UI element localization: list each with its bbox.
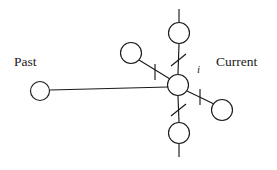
diagram-canvas: Past Current i — [0, 0, 277, 170]
past-node[interactable] — [31, 82, 50, 101]
edge-past-to-center — [50, 87, 168, 90]
center-node[interactable] — [168, 75, 189, 96]
diagram-svg — [0, 0, 277, 170]
top-node[interactable] — [169, 23, 190, 44]
node-layer — [31, 23, 233, 144]
center-node-label: i — [197, 64, 200, 75]
bottom-node[interactable] — [169, 123, 190, 144]
current-label: Current — [216, 55, 257, 69]
past-label: Past — [14, 55, 37, 69]
lower-right-node[interactable] — [212, 100, 233, 121]
upper-left-node[interactable] — [121, 43, 142, 64]
